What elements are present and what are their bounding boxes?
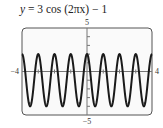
y-min-label: −5 [83, 117, 92, 126]
y-max-label: 5 [85, 18, 89, 27]
chart-plot: 5 −5 −4 4 [0, 0, 163, 128]
x-min-label: −4 [10, 67, 19, 76]
x-max-label: 4 [155, 67, 159, 76]
